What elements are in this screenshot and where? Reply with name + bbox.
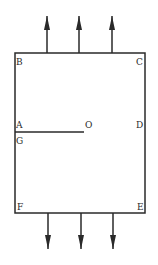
label-b: B	[16, 57, 23, 67]
diagram: B C A O D G F E	[0, 0, 158, 265]
label-a: A	[15, 120, 23, 130]
label-f: F	[17, 202, 23, 212]
rectangle-frame	[15, 53, 145, 213]
label-c: C	[136, 57, 143, 67]
arrows-down	[45, 213, 116, 249]
label-o: O	[85, 120, 92, 130]
label-d: D	[136, 120, 143, 130]
arrows-up	[44, 16, 115, 53]
label-g: G	[16, 136, 23, 146]
label-e: E	[137, 202, 144, 212]
